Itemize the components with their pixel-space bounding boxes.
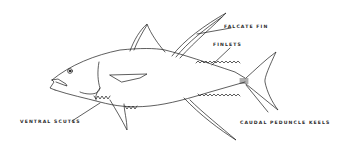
dorsal-finlets (196, 61, 240, 63)
label-falcate-fin: FALCATE FIN (224, 25, 268, 30)
tuna-anatomy-diagram: FALCATE FIN FINLETS VENTRAL SCUTES CAUDA… (0, 0, 361, 156)
anal-fin (184, 98, 236, 140)
pectoral-fin (110, 74, 147, 82)
body-outline-dorsal (52, 49, 245, 81)
tuna-illustration (0, 0, 361, 156)
body-outline-ventral (55, 82, 245, 107)
caudal-fin (246, 52, 278, 110)
label-finlets: FINLETS (213, 43, 242, 48)
leader-caudal-keels (246, 85, 268, 112)
ventral-finlets (198, 94, 240, 96)
gill-cover (80, 62, 100, 94)
label-caudal-peduncle-keels: CAUDAL PEDUNCLE KEELS (240, 121, 331, 126)
ventral-scutes (94, 96, 137, 109)
pelvic-fin (110, 100, 127, 130)
mouth (50, 79, 67, 90)
label-ventral-scutes: VENTRAL SCUTES (20, 120, 81, 125)
first-dorsal-fin (130, 24, 165, 52)
